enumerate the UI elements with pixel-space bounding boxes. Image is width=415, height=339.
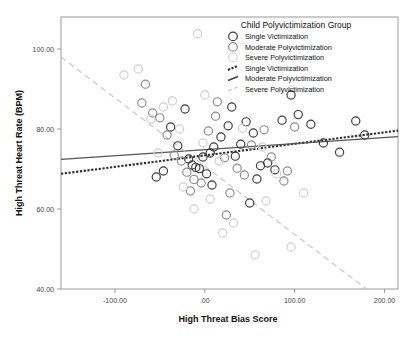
legend-marker-label-2: Severe Polyvictimization [245,53,324,62]
legend-line-label-2: Severe Polyvictimization [245,85,324,94]
y-tick-label: 40.00 [36,286,54,293]
legend-line-label-1: Moderate Polyvictimization [245,74,332,83]
legend-title: Child Polyvictimization Group [241,20,352,30]
legend-line-label-0: Single Victimization [245,64,308,73]
legend-marker-label-1: Moderate Polyvictimization [245,43,332,52]
x-tick-label: 200.00 [374,297,396,304]
legend-marker-label-0: Single Victimization [245,32,308,41]
y-tick-label: 60.00 [36,206,54,213]
x-tick-label: 100.00 [284,297,306,304]
x-tick-label: -100.00 [103,297,127,304]
y-tick-label: 80.00 [36,126,54,133]
y-tick-label: 100.00 [33,46,55,53]
x-tick-label: .00 [200,297,210,304]
y-axis-title: High Threat Heart Rate (BPM) [14,90,24,216]
x-axis-title: High Threat Bias Score [178,314,277,324]
chart-container: -100.00.00100.00200.00 40.0060.0080.0010… [0,0,415,339]
scatter-plot: -100.00.00100.00200.00 40.0060.0080.0010… [0,0,415,339]
